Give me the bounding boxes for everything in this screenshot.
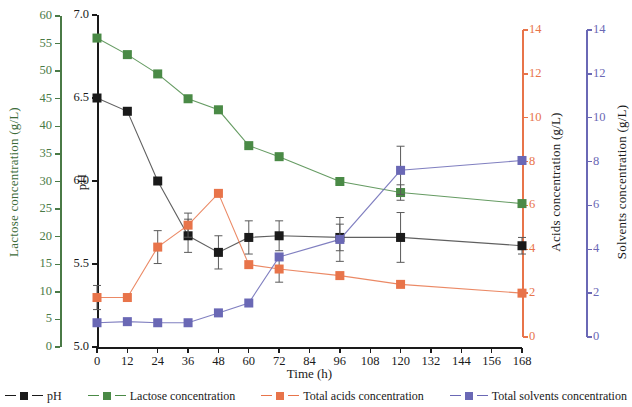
tick-time-144 [461,348,462,353]
tick-ph-7.0 [92,14,97,15]
tick-time-84 [309,348,310,353]
legend-item-1[interactable]: Lactose concentration [88,390,236,402]
datapoint-2-5 [244,260,253,269]
legend-dash-icon [5,395,16,397]
legend-item-3[interactable]: Total solvents concentration [450,390,627,402]
ticklabel-lactose-60: 60 [14,8,52,23]
datapoint-0-6 [275,231,284,240]
datapoint-3-7 [335,235,344,244]
legend-dash-icon [288,395,299,397]
datapoint-3-3 [184,318,193,327]
ticklabel-lactose-15: 15 [14,256,52,271]
datapoint-3-8 [396,166,405,175]
axis-title-acids: Acids concentration (g/L) [548,112,564,251]
ticklabel-lactose-20: 20 [14,229,52,244]
tick-ph-5.5 [92,263,97,264]
tick-solvents-8 [587,161,592,162]
tick-solvents-14 [587,29,592,30]
datapoint-1-1 [123,50,132,59]
ticklabel-lactose-55: 55 [14,36,52,51]
ticklabel-ph-5.0: 5.0 [51,339,89,354]
legend-marker-icon [465,392,473,400]
legend-dash-icon [261,395,272,397]
tick-time-0 [96,348,97,353]
ticklabel-lactose-10: 10 [14,284,52,299]
datapoint-0-3 [184,231,193,240]
datapoint-1-5 [244,141,253,150]
tick-acids-14 [523,29,528,30]
tick-time-96 [339,348,340,353]
chart-legend: pHLactose concentrationTotal acids conce… [0,384,632,407]
datapoint-2-2 [153,243,162,252]
axis-title-solvents: Solvents concentration (g/L) [614,105,630,259]
series-line-3 [97,161,522,323]
tick-acids-2 [523,292,528,293]
tick-time-132 [430,348,431,353]
legend-label: Total solvents concentration [492,390,627,402]
ticklabel-acids-6: 6 [529,197,563,212]
ticklabel-lactose-35: 35 [14,146,52,161]
datapoint-0-4 [214,248,223,257]
legend-dash-icon [115,395,126,397]
tick-solvents-12 [587,73,592,74]
datapoint-2-4 [214,189,223,198]
datapoint-0-8 [396,233,405,242]
axis-line-ph [97,15,99,347]
ticklabel-lactose-45: 45 [14,91,52,106]
datapoint-2-7 [335,271,344,280]
tick-time-12 [127,348,128,353]
tick-lactose-50 [55,70,60,71]
datapoint-3-5 [244,299,253,308]
ticklabel-solvents-6: 6 [593,197,627,212]
figure: Lactose concentration (g/L) pH Acids con… [0,0,632,407]
ticklabel-ph-6.5: 6.5 [51,90,89,105]
ticklabel-acids-2: 2 [529,285,563,300]
tick-solvents-6 [587,205,592,206]
ticklabel-lactose-25: 25 [14,201,52,216]
legend-marker-icon [20,392,28,400]
datapoint-3-1 [123,317,132,326]
ticklabel-lactose-40: 40 [14,118,52,133]
legend-dash-icon [477,395,488,397]
ticklabel-lactose-0: 0 [14,339,52,354]
datapoint-1-8 [396,188,405,197]
tick-solvents-2 [587,292,592,293]
tick-lactose-40 [55,126,60,127]
datapoint-1-2 [153,69,162,78]
tick-time-24 [157,348,158,353]
tick-acids-0 [523,336,528,337]
datapoint-2-8 [396,280,405,289]
ticklabel-solvents-2: 2 [593,285,627,300]
legend-label: pH [47,390,62,402]
ticklabel-solvents-4: 4 [593,241,627,256]
legend-label: Total acids concentration [303,390,423,402]
tick-acids-6 [523,205,528,206]
legend-marker-icon [276,392,284,400]
tick-lactose-10 [55,291,60,292]
series-line-1 [97,38,522,204]
datapoint-0-7 [335,233,344,242]
ticklabel-acids-0: 0 [529,329,563,344]
axis-line-acids [522,30,524,337]
ticklabel-lactose-30: 30 [14,174,52,189]
ticklabel-acids-4: 4 [529,241,563,256]
legend-label: Lactose concentration [130,390,236,402]
ticklabel-lactose-50: 50 [14,63,52,78]
datapoint-0-5 [244,233,253,242]
datapoint-1-4 [214,105,223,114]
tick-ph-6.5 [92,97,97,98]
tick-acids-8 [523,161,528,162]
legend-marker-icon [103,392,111,400]
datapoint-3-2 [153,318,162,327]
tick-time-120 [400,348,401,353]
datapoint-1-6 [275,152,284,161]
legend-dash-icon [88,395,99,397]
legend-item-2[interactable]: Total acids concentration [261,390,423,402]
tick-lactose-25 [55,208,60,209]
ticklabel-solvents-0: 0 [593,329,627,344]
tick-time-168 [521,348,522,353]
ticklabel-acids-12: 12 [529,66,563,81]
legend-item-0[interactable]: pH [5,390,62,402]
tick-lactose-35 [55,153,60,154]
tick-solvents-0 [587,336,592,337]
